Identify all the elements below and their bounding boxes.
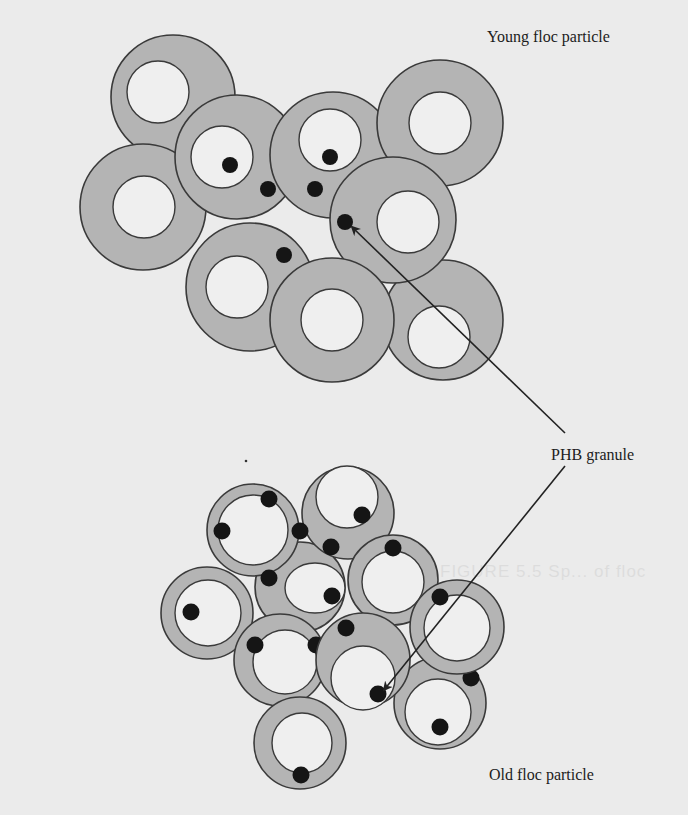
bacterial-cell <box>270 258 394 382</box>
cell-interior <box>331 646 395 710</box>
phb-granule-dot <box>432 719 449 736</box>
cell-interior <box>127 61 189 123</box>
phb-granule-dot <box>276 247 292 263</box>
cell-interior <box>285 563 345 613</box>
phb-granule-dot <box>261 491 278 508</box>
phb-granule-dot <box>247 637 264 654</box>
ink-speck <box>245 460 248 463</box>
phb-granule-dot <box>324 588 341 605</box>
cell-interior <box>253 630 317 694</box>
phb-granule-dot <box>261 570 278 587</box>
phb-granule-dot <box>222 157 238 173</box>
phb-granule-dot <box>323 539 340 556</box>
phb-granule-dot <box>370 686 387 703</box>
cell-interior <box>408 306 470 368</box>
young-floc-particle <box>80 35 503 382</box>
cell-interior <box>113 176 175 238</box>
young-floc-label: Young floc particle <box>487 29 610 45</box>
phb-granule-dot <box>214 523 231 540</box>
phb-granule-dot <box>432 589 449 606</box>
floc-diagram-canvas <box>0 0 688 815</box>
phb-granule-dot <box>385 540 402 557</box>
cell-interior <box>377 191 439 253</box>
floc-diagram: FIGURE 5.5 Sp... of floc Young floc part… <box>0 0 688 815</box>
phb-granule-dot <box>338 620 355 637</box>
old-floc-particle <box>161 466 504 789</box>
cell-interior <box>409 92 471 154</box>
phb-granule-dot <box>260 181 276 197</box>
phb-granule-dot <box>354 507 371 524</box>
phb-granule-dot <box>183 604 200 621</box>
phb-granule-dot <box>337 214 353 230</box>
cell-interior <box>301 289 363 351</box>
bleed-through-text: FIGURE 5.5 Sp... of floc <box>440 562 646 582</box>
bacterial-cell <box>254 697 346 789</box>
cell-interior <box>272 713 332 773</box>
bacterial-cell <box>410 580 504 674</box>
cell-interior <box>206 256 268 318</box>
phb-granule-dot <box>293 767 310 784</box>
cell-interior <box>191 126 253 188</box>
phb-granule-dot <box>307 181 323 197</box>
cell-interior <box>362 551 424 613</box>
phb-granule-dot <box>322 149 338 165</box>
old-floc-label: Old floc particle <box>489 767 594 783</box>
phb-granule-label: PHB granule <box>551 447 634 463</box>
bacterial-cell <box>234 614 326 706</box>
phb-granule-dot <box>292 523 309 540</box>
